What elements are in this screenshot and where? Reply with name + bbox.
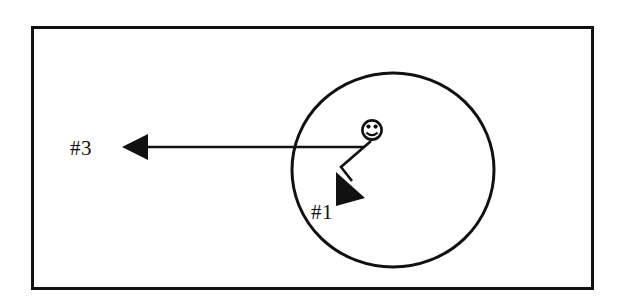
label-arrow-1: #1 <box>311 200 333 224</box>
smiley-eye-left-icon <box>366 125 370 129</box>
arrow-3-group <box>122 134 365 160</box>
diagram-svg: #3 #1 <box>0 0 623 306</box>
label-arrow-3: #3 <box>70 136 92 160</box>
smiley-face-outline <box>362 120 381 139</box>
arrow-3-head <box>122 134 148 160</box>
arrow-1-group <box>336 141 371 206</box>
smiley-mouth-icon <box>366 133 377 136</box>
smiley-face-icon <box>362 120 381 139</box>
diagram-canvas: #3 #1 <box>0 0 623 306</box>
circular-region-outline <box>292 73 494 267</box>
smiley-eye-right-icon <box>374 125 378 129</box>
outer-border-rectangle <box>33 28 593 289</box>
